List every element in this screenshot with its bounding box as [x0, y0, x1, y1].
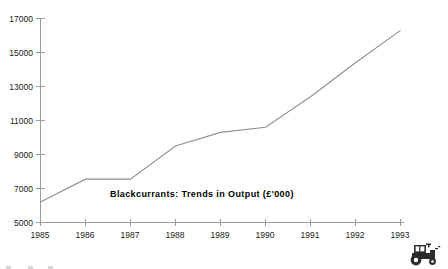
- y-tick-label: 7000: [14, 184, 33, 194]
- x-tick-label: 1988: [166, 230, 185, 240]
- y-tick-label: 11000: [10, 116, 33, 126]
- chart-title: Blackcurrants: Trends in Output (£'000): [110, 189, 294, 199]
- y-tick-label: 15000: [9, 48, 33, 58]
- x-tick-label: 1991: [301, 230, 320, 240]
- x-tick-label: 1987: [121, 230, 140, 240]
- data-series-line: [41, 30, 401, 202]
- x-tick-label: 1986: [76, 230, 95, 240]
- y-tick-label: 9000: [14, 150, 33, 160]
- x-tick-label: 1985: [31, 230, 50, 240]
- y-tick-label: 13000: [9, 82, 33, 92]
- tractor-icon: [406, 239, 444, 267]
- x-tick-label: 1989: [211, 230, 230, 240]
- line-chart: 17000 15000 13000 11000 9000 7000 5000 1…: [0, 0, 448, 269]
- x-tick-label: 1992: [346, 230, 365, 240]
- x-tick-label: 1990: [256, 230, 275, 240]
- y-tick-label: 17000: [9, 14, 33, 24]
- y-tick-label: 5000: [14, 218, 33, 228]
- chart-container: 17000 15000 13000 11000 9000 7000 5000 1…: [0, 0, 448, 269]
